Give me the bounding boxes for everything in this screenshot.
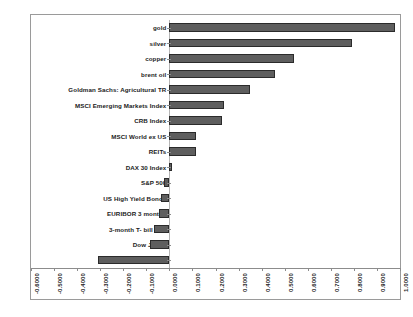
bar-layer [31, 36, 400, 52]
x-tick [100, 268, 101, 271]
bar-chart: goldsilvercopperbrent oilGoldman Sachs: … [0, 0, 413, 317]
plot-area: goldsilvercopperbrent oilGoldman Sachs: … [31, 15, 400, 299]
bar [169, 70, 275, 78]
y-tick [167, 198, 171, 199]
bar-layer [31, 82, 400, 98]
x-tick-label: 0.7000 [334, 273, 340, 292]
x-tick [239, 268, 240, 271]
bar [169, 85, 250, 93]
bar-layer [31, 175, 400, 191]
y-tick [167, 167, 171, 168]
x-tick [308, 268, 309, 271]
x-tick-label: 0.1000 [195, 273, 201, 292]
bar [169, 147, 196, 155]
x-tick [216, 268, 217, 271]
y-tick [167, 74, 171, 75]
x-tick-label: -0.6000 [34, 273, 40, 294]
y-tick [167, 152, 171, 153]
x-tick [123, 268, 124, 271]
x-tick-label: 0.4000 [265, 273, 271, 292]
bar [169, 39, 351, 47]
bar-row: 3-month T- bill rate [31, 222, 400, 238]
bar-layer [31, 67, 400, 83]
y-tick [167, 90, 171, 91]
y-tick [167, 245, 171, 246]
x-tick-label: -0.3000 [103, 273, 109, 294]
bar-layer [31, 144, 400, 160]
bar-layer [31, 206, 400, 222]
y-tick [167, 183, 171, 184]
x-tick-label: 0.0000 [172, 273, 178, 292]
x-tick-label: 0.2000 [219, 273, 225, 292]
x-tick [54, 268, 55, 271]
bar-row: EURIBOR 3 months [31, 206, 400, 222]
bar-row: S&P 500 [31, 175, 400, 191]
x-tick [354, 268, 355, 271]
bar-row: MSCI World ex US [31, 129, 400, 145]
bar-row: CRB Index [31, 113, 400, 129]
x-tick [77, 268, 78, 271]
bar-row: US Dollar Index (DXY) [31, 253, 400, 269]
bar-row: brent oil [31, 67, 400, 83]
x-tick-label: -0.4000 [80, 273, 86, 294]
bar-row: silver [31, 36, 400, 52]
bar-row: Goldman Sachs: Agricultural TR [31, 82, 400, 98]
bar-layer [31, 160, 400, 176]
bar-layer [31, 222, 400, 238]
x-tick-label: 0.3000 [242, 273, 248, 292]
bar [169, 23, 395, 31]
x-tick-label: 0.9000 [380, 273, 386, 292]
y-tick [167, 105, 171, 106]
bar-row: US High Yield Bonds [31, 191, 400, 207]
y-tick [167, 229, 171, 230]
bar-row: Dow Jones [31, 237, 400, 253]
x-tick [262, 268, 263, 271]
bar [169, 116, 222, 124]
bar [169, 132, 196, 140]
bar-layer [31, 253, 400, 269]
x-tick [169, 268, 170, 271]
x-tick [31, 268, 32, 271]
bar [169, 54, 294, 62]
x-tick [377, 268, 378, 271]
bar-row: gold [31, 20, 400, 36]
bar-layer [31, 98, 400, 114]
bar [98, 256, 169, 264]
x-tick [331, 268, 332, 271]
y-tick [167, 59, 171, 60]
bar-layer [31, 113, 400, 129]
y-tick [167, 260, 171, 261]
bar-row: copper [31, 51, 400, 67]
bar-row: DAX 30 Index [31, 160, 400, 176]
x-tick-label: 1.0000 [403, 273, 409, 292]
bar-layer [31, 191, 400, 207]
y-tick [167, 136, 171, 137]
bar-row: MSCI Emerging Markets Index [31, 98, 400, 114]
bar-layer [31, 129, 400, 145]
y-tick [167, 214, 171, 215]
y-tick [167, 43, 171, 44]
bar-layer [31, 51, 400, 67]
bar-layer [31, 237, 400, 253]
y-tick [167, 28, 171, 29]
x-tick [285, 268, 286, 271]
x-tick-label: 0.6000 [311, 273, 317, 292]
x-tick [192, 268, 193, 271]
x-tick-label: 0.5000 [288, 273, 294, 292]
x-tick-label: 0.8000 [357, 273, 363, 292]
x-tick [146, 268, 147, 271]
bar-row: REITs [31, 144, 400, 160]
x-tick-label: -0.2000 [126, 273, 132, 294]
x-tick-label: -0.5000 [57, 273, 63, 294]
bar-layer [31, 20, 400, 36]
y-tick [167, 121, 171, 122]
bar [169, 101, 223, 109]
x-tick-label: -0.1000 [149, 273, 155, 294]
bar-rows: goldsilvercopperbrent oilGoldman Sachs: … [31, 20, 400, 268]
x-tick [400, 268, 401, 271]
